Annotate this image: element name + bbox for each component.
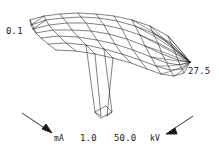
axis-direction-arrows — [22, 113, 193, 134]
y-axis-direction-arrow — [166, 116, 193, 134]
x-axis-direction-arrow — [22, 113, 52, 133]
x-axis-min-label: 1.0 — [80, 133, 97, 143]
z-axis-min-label: 0.1 — [6, 26, 23, 36]
surface-plot-figure: 0.1 27.5 mA 1.0 50.0 kV — [0, 0, 219, 156]
surface-valley-notch — [86, 45, 113, 118]
surface-mesh — [30, 13, 190, 118]
x-axis-max-label: 50.0 — [114, 133, 136, 143]
mesh-rows — [30, 13, 190, 76]
x-axis-name-label: mA — [54, 134, 64, 144]
wireframe-surface-canvas — [0, 0, 219, 156]
z-axis-max-label: 27.5 — [188, 66, 210, 76]
y-axis-name-label: kV — [150, 134, 160, 144]
